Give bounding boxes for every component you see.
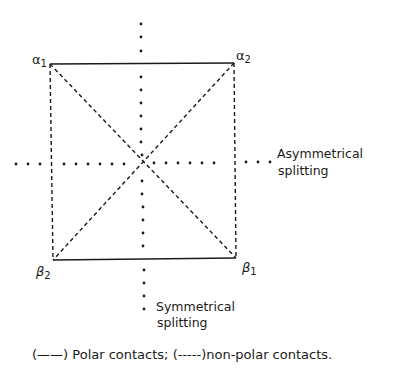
- polar-edge-beta2-beta1: [53, 258, 236, 260]
- legend-polar-text: Polar contacts;: [72, 347, 168, 362]
- nonpolar-edge-alpha1-beta2: [50, 64, 53, 260]
- vertical-dotted-axis: [140, 23, 146, 311]
- node-label-beta2: β2: [35, 264, 51, 281]
- node-label-alpha2: α2: [236, 48, 251, 65]
- legend-polar-key: (——): [32, 347, 68, 362]
- symmetrical-splitting-label: Symmetrical splitting: [156, 299, 239, 330]
- diagram-canvas: α1 α2 β2 β1 Asymmetrical splitting Symme…: [0, 0, 416, 380]
- node-label-beta1: β1: [241, 260, 257, 277]
- nonpolar-edge-alpha1-beta1: [50, 64, 236, 258]
- asymmetrical-splitting-label: Asymmetrical splitting: [277, 146, 367, 178]
- polar-edge-alpha1-alpha2: [50, 63, 234, 64]
- node-label-alpha1: α1: [32, 52, 47, 69]
- nonpolar-edge-alpha2-beta1: [234, 63, 236, 258]
- legend: (——) Polar contacts; (-----)non-polar co…: [32, 347, 332, 362]
- legend-nonpolar-key: (-----): [173, 347, 207, 362]
- nonpolar-edge-alpha2-beta2: [53, 63, 234, 260]
- legend-nonpolar-text: non-polar contacts.: [206, 347, 332, 362]
